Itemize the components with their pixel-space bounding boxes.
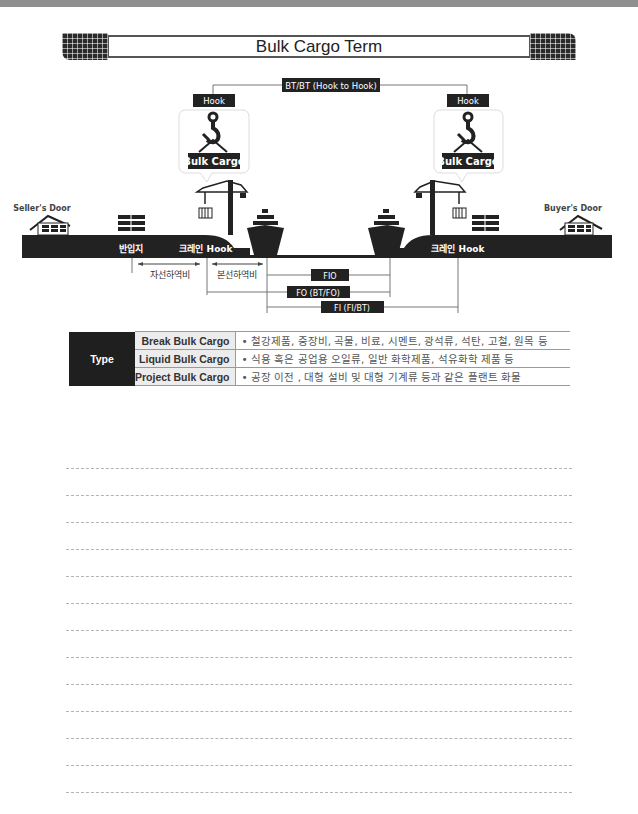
crane-hook-right-label: 크레인 Hook: [431, 243, 485, 254]
fi-bracket: FI (FI/BT): [267, 301, 458, 313]
table-row: Type Break Bulk Cargo • 철강제품, 중장비, 곡물, 비…: [69, 332, 570, 350]
note-line: [66, 793, 572, 814]
bonseon-cost-label: 본선하역비: [217, 270, 257, 280]
hook-label-left: Hook: [203, 96, 225, 106]
container-stack-right: [472, 215, 499, 231]
crane-icon-left: [197, 180, 247, 235]
note-line: [66, 712, 572, 739]
bangipji-label: 반입지: [119, 243, 143, 254]
title-banner: Bulk Cargo Term: [62, 33, 576, 60]
cargo-type-desc: • 공장 이전 , 대형 설비 및 대형 기계류 등과 같은 플랜트 화물: [235, 368, 570, 386]
bt-bt-bracket: BT/BT (Hook to Hook): [213, 78, 467, 94]
buyers-warehouse-icon: Buyer's Door: [544, 204, 602, 235]
cargo-type-name: Liquid Bulk Cargo: [135, 350, 235, 368]
ship-icon-right: [368, 209, 405, 255]
container-stack-left: [118, 215, 145, 231]
note-line: [66, 604, 572, 631]
jaseon-arrow: [138, 262, 200, 266]
note-line: [66, 496, 572, 523]
type-header: Type: [69, 332, 135, 386]
cargo-type-desc: • 식용 혹은 공업용 오일류, 일반 화학제품, 석유화학 제품 등: [235, 350, 570, 368]
bulk-cargo-label-left: Bulk Cargo: [183, 156, 244, 167]
crane-icon-right: [415, 180, 466, 235]
note-line: [66, 631, 572, 658]
bulk-cargo-diagram: BT/BT (Hook to Hook) Hook Bulk Cargo Hoo…: [0, 70, 638, 320]
note-line: [66, 658, 572, 685]
bonseon-arrow: [212, 262, 263, 266]
note-line: [66, 469, 572, 496]
grid-decoration-right: [530, 33, 576, 60]
fi-label: FI (FI/BT): [334, 304, 370, 313]
bt-bt-label: BT/BT (Hook to Hook): [285, 81, 377, 91]
fo-label: FO (BT/FO): [296, 289, 340, 298]
note-lines: [66, 442, 572, 814]
grid-decoration-left: [62, 33, 108, 60]
cargo-type-name: Break Bulk Cargo: [135, 332, 235, 350]
cargo-type-table: Type Break Bulk Cargo • 철강제품, 중장비, 곡물, 비…: [69, 331, 570, 386]
sellers-warehouse-icon: Seller's Door: [13, 204, 71, 235]
dock-ground: [22, 235, 612, 258]
note-line: [66, 523, 572, 550]
hook-callout-left: Hook Bulk Cargo: [179, 94, 249, 182]
table-row: Liquid Bulk Cargo • 식용 혹은 공업용 오일류, 일반 화학…: [69, 350, 570, 368]
bulk-cargo-label-right: Bulk Cargo: [437, 156, 498, 167]
fio-bracket: FIO: [267, 269, 390, 281]
table-row: Project Bulk Cargo • 공장 이전 , 대형 설비 및 대형 …: [69, 368, 570, 386]
cargo-type-desc: • 철강제품, 중장비, 곡물, 비료, 시멘트, 광석류, 석탄, 고철, 원…: [235, 332, 570, 350]
fio-label: FIO: [323, 272, 336, 281]
ship-icon-left: [247, 209, 284, 255]
note-line: [66, 550, 572, 577]
jaseon-cost-label: 자선하역비: [150, 270, 190, 280]
hook-callout-right: Hook Bulk Cargo: [434, 94, 503, 182]
buyers-door-label: Buyer's Door: [544, 204, 602, 213]
fo-bracket: FO (BT/FO): [207, 286, 390, 298]
crane-hook-left-label: 크레인 Hook: [179, 243, 233, 254]
note-line: [66, 739, 572, 766]
note-line: [66, 577, 572, 604]
hook-label-right: Hook: [457, 96, 479, 106]
note-line: [66, 442, 572, 469]
guide-lines: [132, 258, 458, 313]
top-bar: [0, 0, 638, 7]
cargo-type-name: Project Bulk Cargo: [135, 368, 235, 386]
sellers-door-label: Seller's Door: [13, 204, 71, 213]
note-line: [66, 766, 572, 793]
page-title: Bulk Cargo Term: [108, 35, 530, 58]
note-line: [66, 685, 572, 712]
